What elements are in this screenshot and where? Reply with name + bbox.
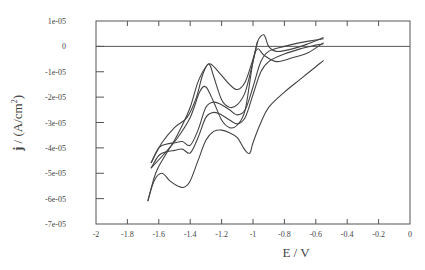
y-tick-label: -2e-05 — [45, 93, 66, 102]
x-tick-label: -1.6 — [152, 230, 165, 239]
x-tick-label: 0 — [408, 230, 412, 239]
x-tick-label: -0.4 — [341, 230, 354, 239]
cyclic-voltammogram-chart: -2-1.8-1.6-1.4-1.2-1-0.8-0.6-0.4-0.20 1e… — [0, 0, 425, 270]
y-tick-label: -6e-05 — [45, 195, 66, 204]
x-axis-title: E / V — [282, 245, 310, 260]
x-tick-label: -2 — [93, 230, 100, 239]
x-tick-label: -0.6 — [309, 230, 322, 239]
x-tick-label: -1.8 — [121, 230, 134, 239]
y-tick-label: 1e-05 — [48, 17, 66, 26]
y-tick-label: -5e-05 — [45, 169, 66, 178]
y-tick-label: -3e-05 — [45, 119, 66, 128]
x-tick-label: -0.8 — [278, 230, 291, 239]
y-tick-label: -4e-05 — [45, 144, 66, 153]
x-tick-label: -0.2 — [372, 230, 385, 239]
y-axis-title: j / (A/cm2) — [10, 95, 25, 152]
x-tick-label: -1.4 — [184, 230, 197, 239]
plot-frame — [96, 21, 410, 224]
y-tick-label: -1e-05 — [45, 68, 66, 77]
y-axis-title-close: ) — [10, 95, 25, 99]
x-tick-label: -1.2 — [215, 230, 228, 239]
y-tick-label: -7e-05 — [45, 220, 66, 229]
y-tick-label: 0 — [62, 42, 66, 51]
x-tick-label: -1 — [250, 230, 257, 239]
y-axis-ticks: 1e-050-1e-05-2e-05-3e-05-4e-05-5e-05-6e-… — [45, 17, 104, 229]
y-axis-title-unit: / (A/cm — [10, 103, 25, 146]
